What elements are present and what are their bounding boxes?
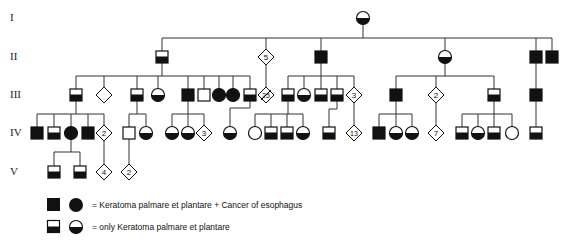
diamond-unknown-icon bbox=[96, 87, 112, 103]
square-half-icon bbox=[282, 89, 294, 101]
circle-unaffected-icon bbox=[506, 127, 519, 140]
square-full-icon bbox=[530, 51, 542, 63]
legend-label-keratoma-only: = only Keratoma palmare et plantare bbox=[92, 222, 230, 232]
square-half-icon bbox=[265, 127, 277, 139]
diamond-deceased-icon: 25 bbox=[258, 87, 274, 103]
circle-half-icon bbox=[390, 127, 403, 140]
circle-unaffected-icon bbox=[249, 127, 262, 140]
square-half-icon bbox=[331, 89, 343, 101]
square-full-icon bbox=[373, 127, 385, 139]
svg-text:5: 5 bbox=[264, 53, 269, 62]
diamond-unknown-icon: 7 bbox=[428, 125, 444, 141]
circle-half-icon bbox=[140, 127, 153, 140]
circle-half-icon bbox=[297, 127, 310, 140]
square-half-icon bbox=[315, 89, 327, 101]
diamond-unknown-icon: 5 bbox=[258, 49, 274, 65]
svg-text:2: 2 bbox=[102, 129, 107, 138]
square-half-icon bbox=[131, 89, 143, 101]
square-half-icon bbox=[70, 89, 82, 101]
square-half-icon bbox=[48, 127, 60, 139]
diamond-unknown-icon: 3 bbox=[196, 125, 212, 141]
svg-text:2: 2 bbox=[127, 168, 132, 177]
diamond-unknown-icon: 2 bbox=[96, 125, 112, 141]
generation-label: IV bbox=[10, 126, 22, 138]
diamond-unknown-icon: 3 bbox=[346, 87, 362, 103]
svg-text:4: 4 bbox=[102, 168, 107, 177]
square-full-icon bbox=[530, 89, 542, 101]
svg-text:7: 7 bbox=[434, 129, 439, 138]
svg-text:2: 2 bbox=[434, 91, 439, 100]
square-half-icon bbox=[281, 127, 293, 139]
square-full-icon bbox=[315, 51, 327, 63]
circle-half-icon bbox=[166, 127, 179, 140]
svg-text:3: 3 bbox=[202, 129, 207, 138]
pedigree-individuals: 525322313742 bbox=[31, 12, 558, 181]
square-full-icon bbox=[182, 89, 194, 101]
square-half-icon bbox=[456, 127, 468, 139]
generation-label: I bbox=[10, 11, 14, 23]
square-half-icon bbox=[48, 166, 60, 178]
circle-half-icon bbox=[472, 127, 485, 140]
circle-full-icon bbox=[213, 89, 226, 102]
square-full-icon bbox=[546, 51, 558, 63]
legend-half-symbols bbox=[46, 219, 86, 235]
square-half-icon bbox=[530, 127, 542, 139]
circle-half-icon bbox=[152, 89, 165, 102]
circle-half-icon bbox=[357, 12, 370, 25]
circle-half-icon bbox=[182, 127, 195, 140]
circle-half-icon bbox=[298, 89, 311, 102]
square-half-icon bbox=[244, 89, 256, 101]
diamond-unknown-icon: 2 bbox=[121, 164, 137, 180]
square-half-icon bbox=[488, 127, 500, 139]
diamond-unknown-icon: 2 bbox=[428, 87, 444, 103]
generation-label: II bbox=[10, 50, 17, 62]
square-full-icon bbox=[47, 198, 60, 211]
svg-text:3: 3 bbox=[352, 91, 357, 100]
diamond-unknown-icon: 13 bbox=[346, 125, 362, 141]
square-unaffected-icon bbox=[198, 89, 210, 101]
legend-affected-cancer: = Keratoma palmare et plantare + Cancer … bbox=[46, 197, 302, 213]
square-full-icon bbox=[31, 127, 43, 139]
legend-keratoma-only: = only Keratoma palmare et plantare bbox=[46, 219, 230, 235]
diamond-unknown-icon: 4 bbox=[96, 164, 112, 180]
circle-full-icon bbox=[65, 127, 78, 140]
generation-label: III bbox=[10, 88, 21, 100]
circle-full-icon bbox=[227, 89, 240, 102]
square-half-icon bbox=[156, 51, 168, 63]
generation-label: V bbox=[10, 165, 18, 177]
legend-label-affected: = Keratoma palmare et plantare + Cancer … bbox=[92, 200, 302, 210]
square-half-icon bbox=[488, 89, 500, 101]
circle-full-icon bbox=[69, 198, 83, 212]
square-half-icon bbox=[74, 166, 86, 178]
square-full-icon bbox=[82, 127, 94, 139]
square-full-icon bbox=[390, 89, 402, 101]
square-unaffected-icon bbox=[123, 127, 135, 139]
legend-affected-symbols bbox=[46, 197, 86, 213]
circle-half-icon bbox=[439, 51, 452, 64]
square-half-icon bbox=[323, 127, 335, 139]
circle-half-icon bbox=[406, 127, 419, 140]
svg-text:13: 13 bbox=[350, 130, 358, 137]
circle-half-icon bbox=[224, 127, 237, 140]
